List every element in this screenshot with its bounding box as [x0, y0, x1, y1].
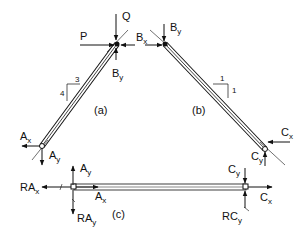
force-label-rax: RAx [20, 181, 39, 196]
slope-run-label: 1 [220, 74, 225, 83]
member-label-b: (b) [192, 104, 205, 116]
member-a [32, 30, 128, 160]
force-label-ax-a: Ax [20, 130, 31, 145]
force-label-p: P [80, 30, 87, 42]
force-label-cx-c: Cx [260, 191, 272, 206]
force-label-ray: RAy [77, 212, 96, 227]
force-label-ay-c: Ay [80, 162, 91, 177]
member-label-c: (c) [112, 208, 125, 220]
force-label-rcy: RCy [222, 210, 242, 225]
slope-rise-label: 4 [60, 89, 65, 98]
cut-line [260, 142, 285, 165]
slope-rise-label: 1 [232, 86, 237, 95]
cut-line [32, 140, 48, 160]
free-body-diagram: 3 4 (a) P Q By Ax Ay 1 1 (b) Bx By Cx Cy [0, 0, 307, 240]
slope-run-label: 3 [75, 75, 80, 84]
force-label-q: Q [122, 10, 131, 22]
force-label-by-b: By [170, 21, 181, 36]
pin-a [40, 144, 45, 149]
cut-line [107, 30, 128, 52]
force-label-ay-a: Ay [49, 149, 60, 164]
force-label-cy-b: Cy [251, 150, 263, 165]
pin-c-b [263, 147, 268, 152]
pin-b-b [163, 42, 168, 47]
force-label-ax-c: Ax [95, 190, 106, 205]
force-label-cx-b: Cx [281, 126, 293, 141]
cut-line [244, 207, 249, 211]
force-label-cy-c: Cy [228, 163, 240, 178]
force-label-by-a: By [112, 67, 123, 82]
pin-b-a [115, 42, 120, 47]
force-label-bx: Bx [136, 31, 147, 46]
member-b [150, 30, 285, 165]
member-label-a: (a) [94, 104, 107, 116]
pin-c-c [243, 184, 248, 189]
